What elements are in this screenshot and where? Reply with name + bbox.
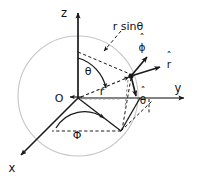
label-radius-r: r [100,85,105,98]
label-unit-phi: ϕ [139,41,146,53]
thetahat-guide-dash [125,80,128,108]
label-unit-theta: θ [140,94,146,106]
rsintheta-leader-line [104,31,121,51]
label-unit-theta-hat-group: ˆ θ [140,86,146,106]
label-unit-phi-hat-group: ˆ ϕ [139,33,146,53]
label-angle-phi: Φ [73,129,82,142]
spherical-coordinates-figure: z y x O θ Φ r r sinθ ˆ ϕ ˆ r ˆ θ [0,0,199,179]
label-angle-theta: θ [85,65,92,78]
angle-phi-arc [56,112,104,128]
label-r-sin-theta: r sinθ [113,20,144,33]
figure-canvas: z y x O θ Φ r r sinθ ˆ ϕ ˆ r ˆ θ [0,0,199,179]
label-axis-z: z [61,6,67,20]
xy-projection-dash-right [121,101,152,131]
label-unit-r-hat-group: ˆ r [167,51,172,70]
label-unit-r: r [167,58,172,70]
angle-theta-arc [78,58,106,88]
label-axis-y: y [175,81,182,95]
axis-x-line [21,98,78,155]
label-axis-x: x [9,161,16,175]
label-origin: O [55,92,64,105]
radius-line [81,77,129,97]
